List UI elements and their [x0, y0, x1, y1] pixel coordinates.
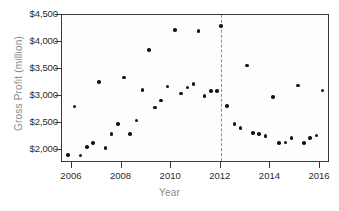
x-axis-tick-label: 2008: [101, 170, 141, 181]
data-point: [79, 154, 83, 158]
x-axis-tick-label: 2010: [150, 170, 190, 181]
data-point: [277, 141, 281, 145]
data-point: [110, 132, 114, 136]
reference-line-2012: [221, 15, 222, 161]
y-axis-tick: [55, 68, 61, 69]
y-axis-tick: [55, 95, 61, 96]
data-point: [91, 141, 95, 145]
plot-area: [61, 14, 329, 162]
data-point: [66, 153, 70, 157]
data-point: [251, 131, 255, 135]
y-axis-title: Gross Profit (million): [13, 14, 24, 154]
data-point: [209, 89, 213, 93]
data-point: [302, 141, 306, 145]
x-axis-tick: [269, 162, 270, 168]
x-axis-tick-label: 2016: [299, 170, 339, 181]
data-point: [219, 24, 223, 28]
x-axis-tick-label: 2012: [200, 170, 240, 181]
data-point: [122, 76, 126, 80]
data-point: [166, 85, 170, 89]
data-point: [271, 95, 275, 99]
y-axis-tick: [55, 122, 61, 123]
data-point: [186, 86, 190, 90]
data-point: [308, 136, 312, 140]
data-point: [296, 84, 300, 88]
x-axis-tick: [170, 162, 171, 168]
data-point: [104, 146, 108, 150]
data-point: [73, 105, 77, 109]
x-axis-tick: [319, 162, 320, 168]
y-axis-tick: [55, 14, 61, 15]
data-point: [225, 104, 229, 108]
data-point: [245, 64, 249, 68]
scatter-chart-figure: $2,000$2,500$3,000$3,500$4,000$4,500 Yea…: [0, 0, 339, 211]
data-point: [239, 126, 243, 130]
data-point: [192, 82, 196, 86]
data-point: [128, 132, 132, 136]
y-axis-tick-labels: $2,000$2,500$3,000$3,500$4,000$4,500: [0, 0, 58, 211]
x-axis-tick-label: 2006: [51, 170, 91, 181]
data-point: [141, 88, 145, 92]
x-axis-title: Year: [0, 187, 339, 198]
data-point: [173, 28, 177, 32]
x-axis-tick-label: 2014: [249, 170, 289, 181]
data-point: [147, 48, 151, 52]
data-point: [116, 122, 120, 126]
data-point: [315, 134, 319, 138]
data-point: [321, 89, 325, 93]
data-point: [215, 89, 219, 93]
data-point: [197, 29, 201, 33]
data-point: [203, 94, 207, 98]
data-point: [264, 134, 268, 138]
y-axis-tick: [55, 41, 61, 42]
data-point: [153, 106, 157, 110]
data-point: [284, 141, 288, 145]
y-axis-tick: [55, 149, 61, 150]
x-axis-tick: [121, 162, 122, 168]
x-axis-tick: [220, 162, 221, 168]
x-axis-tick: [71, 162, 72, 168]
data-point: [290, 136, 294, 140]
data-point: [233, 122, 237, 126]
data-point: [135, 119, 139, 123]
data-point: [179, 92, 183, 96]
data-point: [159, 99, 163, 103]
data-point: [97, 80, 101, 84]
data-point: [85, 145, 89, 149]
data-point: [257, 132, 261, 136]
